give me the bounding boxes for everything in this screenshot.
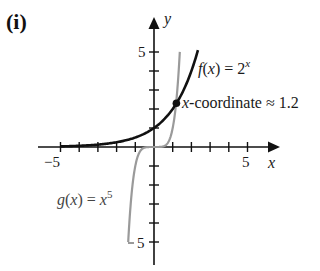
axes: [38, 17, 280, 265]
chart-figure: (i) −5 5 5 5 x y f(x) = 2x x-coordinate …: [0, 0, 320, 271]
x-tick-label-5: 5: [242, 154, 250, 170]
y-tick-label-5: 5: [138, 44, 146, 60]
intersection-point: [173, 100, 181, 108]
y-tick-label-neg5: 5: [137, 235, 145, 251]
annotation-label: x-coordinate ≈ 1.2: [181, 94, 299, 111]
f-label: f(x) = 2x: [198, 57, 250, 78]
g-label: g(x) = x5: [57, 188, 113, 209]
x-axis-arrow-icon: [268, 142, 280, 153]
x-tick-label-neg5: −5: [44, 154, 60, 170]
y-axis-arrow-icon: [149, 17, 160, 29]
y-axis-label: y: [162, 10, 172, 28]
x-axis-label: x: [267, 154, 275, 171]
panel-label: (i): [6, 9, 27, 34]
